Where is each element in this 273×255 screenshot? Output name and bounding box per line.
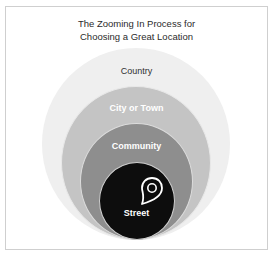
label-community: Community	[0, 141, 273, 151]
diagram-title: The Zooming In Process for Choosing a Gr…	[0, 17, 273, 43]
map-pin-icon	[139, 176, 163, 206]
circle-street	[99, 162, 175, 240]
label-city-or-town: City or Town	[0, 103, 273, 113]
title-line-1: The Zooming In Process for	[0, 17, 273, 30]
label-country: Country	[0, 66, 273, 76]
title-line-2: Choosing a Great Location	[0, 30, 273, 43]
label-street: Street	[0, 208, 273, 218]
